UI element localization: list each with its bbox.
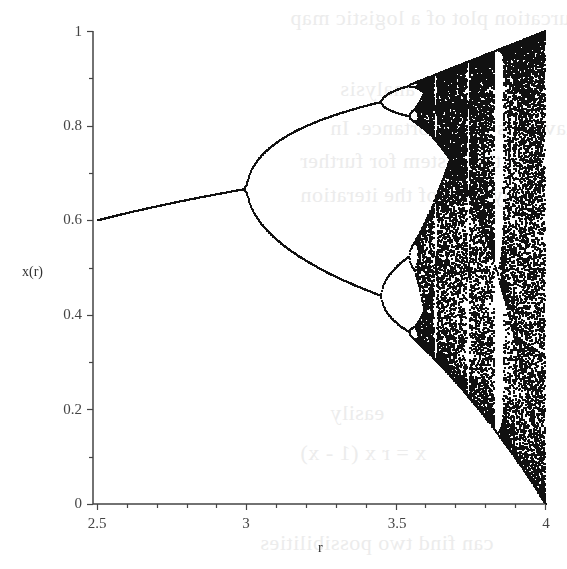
- y-tick-label-1: 1: [42, 24, 82, 39]
- x-axis-title: r: [318, 540, 323, 556]
- y-tick-label-0.6: 0.6: [42, 212, 82, 227]
- x-tick-label-2.5: 2.5: [77, 516, 117, 531]
- x-tick-label-3.5: 3.5: [377, 516, 417, 531]
- x-tick-label-3: 3: [226, 516, 266, 531]
- x-tick-label-4: 4: [526, 516, 566, 531]
- y-tick-label-0.8: 0.8: [42, 118, 82, 133]
- bifurcation-plot: [0, 0, 567, 569]
- y-axis-title: x(r): [22, 264, 43, 280]
- y-tick-label-0.4: 0.4: [42, 307, 82, 322]
- y-tick-label-0: 0: [42, 496, 82, 511]
- y-tick-label-0.2: 0.2: [42, 402, 82, 417]
